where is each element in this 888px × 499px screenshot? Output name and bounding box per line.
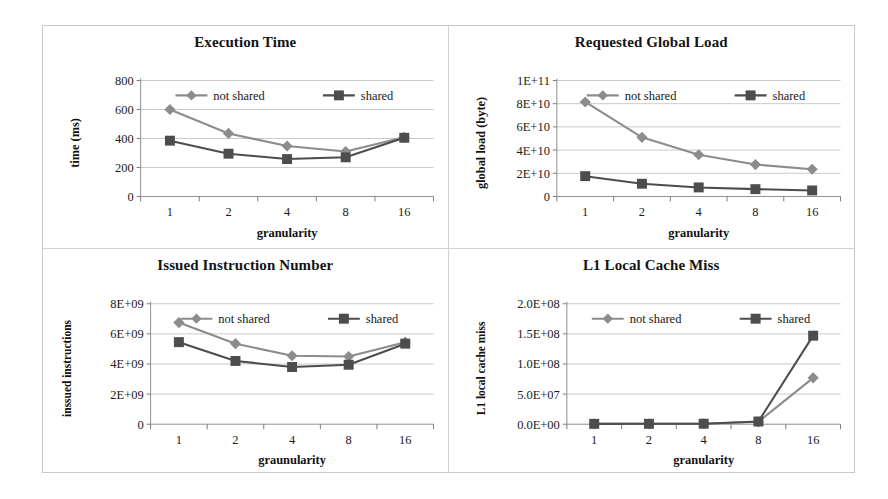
y-tick-label: 1.5E+08 xyxy=(517,327,560,341)
x-tick-label: 16 xyxy=(398,205,410,219)
marker-square xyxy=(165,136,175,146)
marker-diamond xyxy=(282,140,293,151)
chart-issued-instruction-number: 02E+094E+096E+098E+09124816graunularityi… xyxy=(43,249,448,472)
y-tick-label: 0 xyxy=(137,418,143,432)
marker-square xyxy=(287,362,297,372)
x-tick-label: 16 xyxy=(399,433,411,447)
chart-panel-execution-time: Execution Time 0200400600800124816granul… xyxy=(43,26,449,249)
y-tick-label: 2E+09 xyxy=(110,388,143,402)
marker-square xyxy=(643,419,653,429)
y-tick-label: 4E+09 xyxy=(110,357,143,371)
chart-panel-l1-local-cache-miss: L1 Local Cache Miss 0.0E+005.0E+071.0E+0… xyxy=(449,249,855,472)
marker-square xyxy=(808,331,818,341)
marker-square xyxy=(580,171,590,181)
marker-diamond xyxy=(693,149,704,160)
x-tick-label: 8 xyxy=(343,205,349,219)
y-tick-label: 4E+10 xyxy=(516,144,549,158)
x-tick-label: 8 xyxy=(752,205,758,219)
legend-marker-square xyxy=(334,90,344,100)
x-tick-label: 1 xyxy=(176,433,182,447)
y-tick-label: 6E+09 xyxy=(110,327,143,341)
legend-label-shared: shared xyxy=(366,312,399,326)
marker-square xyxy=(174,337,184,347)
marker-square xyxy=(224,149,234,159)
y-tick-label: 200 xyxy=(115,161,134,175)
x-tick-label: 4 xyxy=(284,205,291,219)
x-tick-label: 2 xyxy=(638,205,644,219)
y-tick-label: 5.0E+07 xyxy=(517,388,560,402)
legend-label-not-shared: not shared xyxy=(624,89,676,103)
y-tick-label: 600 xyxy=(115,103,134,117)
x-tick-label: 16 xyxy=(806,433,818,447)
y-tick-label: 2.0E+08 xyxy=(517,297,560,311)
x-tick-label: 2 xyxy=(225,205,231,219)
y-tick-label: 0 xyxy=(543,190,549,204)
marker-diamond xyxy=(579,96,590,107)
marker-square xyxy=(282,154,292,164)
legend-label-shared: shared xyxy=(777,312,810,326)
x-tick-label: 1 xyxy=(582,205,588,219)
chart-legend: not sharedshared xyxy=(180,312,399,326)
y-tick-label: 8E+10 xyxy=(516,97,549,111)
chart-l1-local-cache-miss: 0.0E+005.0E+071.0E+081.5E+082.0E+0812481… xyxy=(449,249,855,472)
legend-marker-square xyxy=(339,314,349,324)
y-tick-label: 8E+09 xyxy=(110,297,143,311)
series-line-shared xyxy=(594,336,813,424)
legend-marker-diamond xyxy=(186,90,196,100)
marker-square xyxy=(344,360,354,370)
series-line-not-shared xyxy=(594,378,813,424)
marker-diamond xyxy=(749,159,760,170)
marker-square xyxy=(399,133,409,143)
panel-grid: Execution Time 0200400600800124816granul… xyxy=(43,26,854,472)
legend-label-shared: shared xyxy=(361,89,394,103)
legend-label-shared: shared xyxy=(772,89,805,103)
x-axis-title: graunularity xyxy=(258,453,327,467)
x-tick-label: 4 xyxy=(700,433,707,447)
marker-diamond xyxy=(164,104,175,115)
legend-label-not-shared: not shared xyxy=(213,89,265,103)
x-tick-label: 1 xyxy=(591,433,597,447)
marker-diamond xyxy=(223,128,234,139)
x-tick-label: 8 xyxy=(755,433,761,447)
y-tick-label: 1.0E+08 xyxy=(517,357,560,371)
legend-marker-diamond xyxy=(597,90,607,100)
marker-diamond xyxy=(286,350,297,361)
x-axis-title: granularity xyxy=(668,226,730,240)
y-tick-label: 0 xyxy=(127,190,133,204)
chart-execution-time: 0200400600800124816granularitytime (ms)n… xyxy=(43,26,448,248)
marker-square xyxy=(750,184,760,194)
y-tick-label: 800 xyxy=(115,74,134,88)
marker-square xyxy=(807,185,817,195)
legend-label-not-shared: not shared xyxy=(218,312,270,326)
y-tick-label: 2E+10 xyxy=(516,167,549,181)
marker-square xyxy=(400,339,410,349)
marker-square xyxy=(231,356,241,366)
y-axis-title: time (ms) xyxy=(68,118,82,168)
x-tick-label: 8 xyxy=(346,433,352,447)
marker-diamond xyxy=(636,132,647,143)
legend-marker-square xyxy=(750,314,760,324)
y-tick-label: 1E+11 xyxy=(516,74,549,88)
marker-diamond xyxy=(230,338,241,349)
y-axis-title: inssued instructions xyxy=(61,319,73,416)
chart-legend: not sharedshared xyxy=(586,89,805,103)
chart-legend: not sharedshared xyxy=(591,312,810,326)
x-axis-title: granularity xyxy=(257,226,319,240)
marker-square xyxy=(753,417,763,427)
marker-square xyxy=(693,182,703,192)
x-tick-label: 2 xyxy=(232,433,238,447)
x-tick-label: 4 xyxy=(289,433,296,447)
x-tick-label: 1 xyxy=(167,205,173,219)
y-axis-title: global load (byte) xyxy=(473,97,487,189)
y-axis-title: L1 local cache miss xyxy=(474,321,486,415)
legend-marker-diamond xyxy=(602,314,612,324)
chart-legend: not sharedshared xyxy=(176,89,395,103)
legend-label-not-shared: not shared xyxy=(629,312,681,326)
x-tick-label: 4 xyxy=(695,205,702,219)
marker-square xyxy=(698,419,708,429)
chart-requested-global-load: 02E+104E+106E+108E+101E+11124816granular… xyxy=(449,26,855,248)
x-tick-label: 16 xyxy=(805,205,817,219)
marker-square xyxy=(589,419,599,429)
y-tick-label: 0.0E+00 xyxy=(517,418,560,432)
y-tick-label: 6E+10 xyxy=(516,120,549,134)
